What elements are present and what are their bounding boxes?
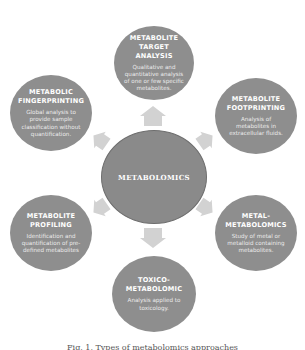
node-title-line2: FOOTPRINTING [227, 104, 285, 113]
node-metabolite-target-analysis: METABOLITE TARGET ANALYSIS Qualitative a… [114, 26, 194, 100]
node-title: TOXICO- METABOLOMIC [126, 276, 182, 294]
node-description: Global analysis to provide sample classi… [20, 109, 82, 138]
node-description: Study of metal or metalloid containing m… [225, 233, 287, 255]
node-title-line2: TARGET ANALYSIS [124, 43, 184, 61]
arrow-up-left-icon [88, 127, 113, 153]
node-title-line1: METABOLIC [18, 88, 84, 97]
node-title-line1: METABOLITE [227, 95, 285, 104]
arrow-down-icon [140, 228, 166, 248]
node-title: METABOLITE PROFILING [27, 212, 75, 230]
figure-caption: Fig. 1. Types of metabolomics approaches [0, 340, 305, 350]
node-metabolic-fingerprinting: METABOLIC FINGERPRINTING Global analysis… [10, 75, 92, 151]
node-title-line2: PROFILING [27, 221, 75, 230]
arrow-up-right-icon [194, 127, 219, 153]
node-title: METABOLITE TARGET ANALYSIS [124, 34, 184, 61]
node-title-line1: METABOLITE [27, 212, 75, 221]
node-description: Qualitative and quantitative analysis of… [124, 64, 184, 93]
node-metabolite-profiling: METABOLITE PROFILING Identification and … [10, 195, 92, 271]
node-metabolite-footprinting: METABOLITE FOOTPRINTING Analysis of meta… [215, 78, 297, 154]
node-title: METABOLITE FOOTPRINTING [227, 95, 285, 113]
node-title-line2: METABOLOMIC [126, 285, 182, 294]
arrow-up-icon [140, 106, 166, 126]
center-label: METABOLOMICS [118, 173, 190, 182]
node-title-line1: METAL- [225, 212, 286, 221]
center-node-metabolomics: METABOLOMICS [101, 130, 207, 224]
node-title-line2: METABOLOMICS [225, 221, 286, 230]
node-title-line2: FINGERPRINTING [18, 97, 84, 106]
node-title-line1: METABOLITE [124, 34, 184, 43]
node-title: METABOLIC FINGERPRINTING [18, 88, 84, 106]
node-description: Analysis applied to toxicology. [122, 297, 186, 311]
node-title: METAL- METABOLOMICS [225, 212, 286, 230]
node-toxico-metabolomic: TOXICO- METABOLOMIC Analysis applied to … [112, 256, 196, 332]
node-metal-metabolomics: METAL- METABOLOMICS Study of metal or me… [215, 195, 297, 271]
node-description: Analysis of metabolites in extracellular… [225, 116, 287, 138]
node-title-line1: TOXICO- [126, 276, 182, 285]
node-description: Identification and quantification of pre… [20, 233, 82, 255]
